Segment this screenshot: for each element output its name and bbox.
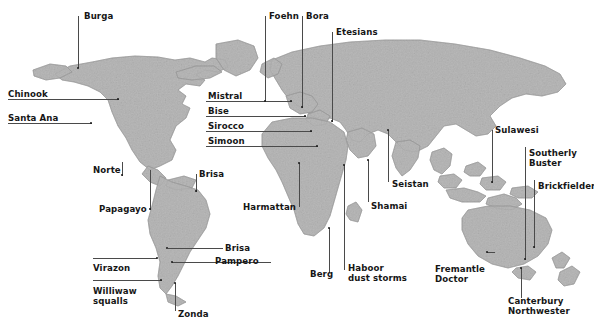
leader-shamai xyxy=(368,160,369,202)
label-foehn: Foehn xyxy=(269,12,299,22)
label-berg: Berg xyxy=(310,270,333,280)
leader-williwaw xyxy=(93,280,162,281)
leader-virazon xyxy=(93,258,157,259)
leader-canterbury xyxy=(521,268,522,298)
label-bora: Bora xyxy=(306,12,329,22)
label-zonda: Zonda xyxy=(178,310,209,320)
leader-brisa-south xyxy=(168,248,223,249)
leader-haboor xyxy=(344,165,345,270)
label-sulawesi: Sulawesi xyxy=(495,126,539,136)
label-brisa-north: Brisa xyxy=(199,170,224,180)
leader-harmattan xyxy=(299,163,300,207)
label-papagayo: Papagayo xyxy=(99,205,147,215)
label-virazon: Virazon xyxy=(93,264,130,274)
label-haboor-dust-storms: Haboor dust storms xyxy=(348,264,407,283)
leader-zonda xyxy=(175,283,176,311)
leader-fremantle-doctor xyxy=(487,252,495,253)
label-norte: Norte xyxy=(93,166,121,176)
leader-brickfielder xyxy=(534,180,535,248)
label-simoon: Simoon xyxy=(208,137,245,147)
leader-foehn xyxy=(265,16,266,102)
label-burga: Burga xyxy=(84,12,113,22)
label-sirocco: Sirocco xyxy=(208,122,244,132)
wind-names-world-map: BurgaFoehnBoraEtesiansChinookSanta AnaMi… xyxy=(0,0,594,328)
leader-sulawesi xyxy=(492,130,493,183)
label-bise: Bise xyxy=(208,107,229,117)
leader-bora xyxy=(302,16,303,108)
label-harmattan: Harmattan xyxy=(243,203,296,213)
label-chinook: Chinook xyxy=(8,90,48,100)
label-canterbury-northwester: Canterbury Northwester xyxy=(508,297,570,316)
label-brisa-south: Brisa xyxy=(225,244,250,254)
leader-berg xyxy=(329,228,330,273)
leader-papagayo xyxy=(150,170,151,210)
label-santa-ana: Santa Ana xyxy=(8,114,58,124)
label-southerly-buster: Southerly Buster xyxy=(529,149,577,168)
label-fremantle-doctor: Fremantle Doctor xyxy=(435,265,485,284)
label-pampero: Pampero xyxy=(215,257,259,267)
label-seistan: Seistan xyxy=(392,180,429,190)
leader-burga xyxy=(78,16,79,68)
leader-etesians xyxy=(332,32,333,122)
world-map-graphic xyxy=(0,0,594,328)
label-shamai: Shamai xyxy=(371,202,407,212)
label-etesians: Etesians xyxy=(336,28,378,38)
leader-southerly-buster xyxy=(525,147,526,260)
label-mistral: Mistral xyxy=(208,92,242,102)
label-williwaw-squalls: Williwaw squalls xyxy=(93,287,137,306)
leader-seistan xyxy=(388,130,389,182)
label-brickfielder: Brickfielder xyxy=(538,182,594,192)
